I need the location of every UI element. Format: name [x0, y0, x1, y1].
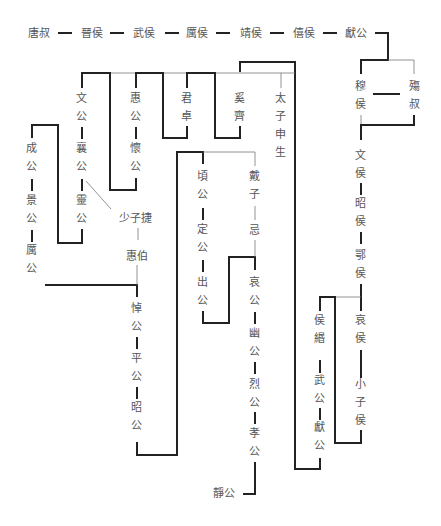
name-shangshu: 殤叔	[409, 79, 420, 111]
name-daizi: 戴子	[249, 169, 260, 201]
name-junzhuo: 君卓	[181, 92, 192, 123]
link	[187, 73, 240, 138]
name-houmin: 侯緡	[314, 313, 325, 345]
name-xiangong1: 獻公	[345, 26, 367, 40]
link	[82, 73, 136, 190]
name-chenggong: 成公	[26, 142, 37, 173]
link	[86, 181, 111, 209]
daogong-line: 少子捷 惠伯 悼公 平公 昭公	[45, 152, 203, 455]
link	[243, 462, 255, 494]
name-aihou: 哀侯	[355, 313, 366, 345]
name-tangshu: 唐叔	[28, 26, 50, 40]
name-wugong: 武公	[314, 374, 325, 405]
name-huaigong: 懷公	[130, 142, 141, 173]
name-wenhou: 文侯	[355, 148, 366, 180]
name-chugong: 出公	[197, 275, 208, 307]
name-jinhou: 晉侯	[81, 26, 103, 40]
name-huibo: 惠伯	[126, 249, 148, 263]
name-shaozijie: 少子捷	[119, 211, 152, 225]
link	[45, 285, 137, 297]
name-xianggong: 襄公	[76, 141, 87, 173]
name-wuhou: 武侯	[133, 26, 155, 40]
name-xiqi: 奚齊	[234, 92, 245, 123]
link	[136, 73, 187, 138]
chenggong-line: 成公 景公 厲公	[26, 125, 82, 275]
name-ehou: 鄂侯	[355, 249, 366, 280]
name-taizishensheng: 太子申生	[275, 92, 286, 159]
name-ligong: 厲公	[26, 244, 37, 275]
link	[361, 115, 414, 140]
xiangong-sons: 文公 襄公 靈公 惠公 懷公 君卓 奚齊 太子申生	[76, 73, 295, 225]
right-branch: 穆侯 穆侯 殤叔 文侯 昭侯 鄂侯 哀侯 小子侯 侯緡 武公 獻公	[240, 62, 420, 469]
name-jinghou: 靖侯	[240, 26, 262, 40]
name-lihou: 厲侯	[186, 26, 208, 40]
name-qinggong: 頃公	[197, 170, 208, 201]
name-xiaozihou: 小子侯	[355, 378, 366, 427]
top-chain: 唐叔 晉侯 武侯 厲侯 靖侯 僖侯 獻公	[28, 26, 414, 74]
name-aigong: 哀公	[249, 275, 260, 307]
name-zhaohou: 昭侯	[355, 197, 366, 228]
name-daogong: 悼公	[131, 301, 142, 333]
link	[388, 60, 414, 74]
name-pinggong: 平公	[131, 352, 142, 383]
name-dinggong: 定公	[197, 222, 208, 254]
name-yougong: 幽公	[249, 327, 260, 358]
qinggong-line: 頃公 定公 出公 戴子 忌 哀公 幽公 烈公 孝公 靜公	[197, 152, 260, 500]
link	[203, 257, 255, 323]
name-jinggong: 景公	[26, 194, 37, 225]
link	[32, 125, 82, 243]
name-jinggong2: 靜公	[213, 486, 235, 500]
genealogy-diagram: 唐叔 晉侯 武侯 厲侯 靖侯 僖侯 獻公 穆侯 穆侯 殤叔 文侯 昭侯 鄂侯 哀…	[0, 0, 441, 526]
name-liegong: 烈公	[249, 377, 260, 409]
name-huigong: 惠公	[130, 91, 141, 123]
name-wengong: 文公	[76, 91, 87, 123]
link	[137, 152, 203, 455]
name-xihou: 僖侯	[293, 26, 315, 40]
name-linggong: 靈公	[76, 194, 87, 225]
name-muhou: 穆侯	[355, 79, 366, 111]
name-zhaogong: 昭公	[131, 401, 142, 432]
name-ji: 忌	[249, 224, 260, 237]
name-xiaogong: 孝公	[249, 427, 260, 458]
name-xiangong2: 獻公	[314, 420, 325, 452]
